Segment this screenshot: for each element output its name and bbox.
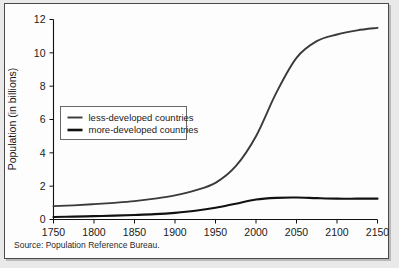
x-tick-label: 1800 <box>82 226 106 238</box>
x-tick-label: 1850 <box>123 226 147 238</box>
x-tick-label: 2150 <box>366 226 390 238</box>
y-tick-label: 10 <box>34 47 46 59</box>
y-tick-label: 0 <box>40 213 46 225</box>
y-tick-label: 6 <box>40 113 46 125</box>
x-tick-label: 1950 <box>204 226 228 238</box>
chart-legend: less-developed countriesmore-developed c… <box>61 107 199 140</box>
x-tick-marks <box>54 220 378 224</box>
plot-wrapper: 175018001850190019502000205021002150 024… <box>0 0 399 268</box>
y-tick-labels: 024681012 <box>34 13 46 225</box>
population-projection-line-chart: 175018001850190019502000205021002150 024… <box>0 0 399 268</box>
legend-label: more-developed countries <box>89 124 199 135</box>
x-tick-label: 2050 <box>285 226 309 238</box>
series-line <box>54 197 378 217</box>
x-tick-label: 2100 <box>325 226 349 238</box>
source-note: Source: Population Reference Bureau. <box>14 240 160 250</box>
y-axis-title: Population (in billions) <box>6 68 18 171</box>
legend-label: less-developed countries <box>89 112 194 123</box>
y-tick-marks <box>50 20 54 220</box>
x-tick-label: 2000 <box>244 226 268 238</box>
x-tick-label: 1750 <box>42 226 66 238</box>
chart-figure: 175018001850190019502000205021002150 024… <box>0 0 399 268</box>
x-tick-labels: 175018001850190019502000205021002150 <box>42 226 390 238</box>
y-tick-label: 12 <box>34 13 46 25</box>
y-tick-label: 8 <box>40 80 46 92</box>
y-tick-label: 4 <box>40 147 46 159</box>
y-tick-label: 2 <box>40 180 46 192</box>
x-tick-label: 1900 <box>163 226 187 238</box>
